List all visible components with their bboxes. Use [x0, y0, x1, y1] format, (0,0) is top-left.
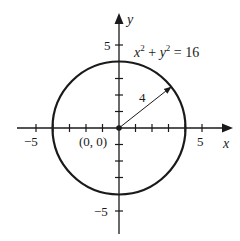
y-tick-label-5: 5 — [104, 38, 111, 53]
x-axis — [17, 124, 233, 133]
eq-equals: = 16 — [170, 45, 199, 60]
y-axis — [115, 13, 124, 234]
circle-equation: x2 + y2 = 16 — [133, 43, 199, 60]
x-axis-arrow-icon — [222, 124, 233, 133]
x-tick-label-neg5: −5 — [24, 134, 38, 149]
x-tick-label-5: 5 — [197, 134, 204, 149]
radius-label: 4 — [139, 90, 146, 105]
y-axis-arrow-icon — [115, 13, 124, 24]
circle-diagram: y x 5 −5 −5 5 (0, 0) 4 x2 + y2 = 16 — [0, 0, 240, 241]
x-axis-label: x — [222, 136, 230, 151]
y-axis-label: y — [125, 12, 134, 27]
y-tick-label-neg5: −5 — [94, 204, 108, 219]
eq-plus: + — [145, 45, 160, 60]
center-label: (0, 0) — [79, 134, 107, 149]
center-point — [116, 125, 122, 131]
